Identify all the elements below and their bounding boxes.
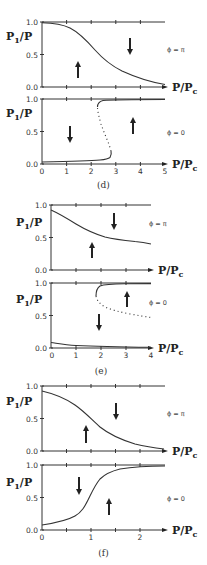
x-tick-3: 3: [124, 351, 129, 360]
x-axis-arrow-icon: [162, 528, 168, 532]
ticks: [40, 463, 140, 532]
x-tick-4: 4: [138, 167, 143, 176]
x-tick-1: 1: [89, 533, 94, 542]
y-axis-label: P1/P: [6, 476, 32, 491]
panel-f-top: 1.0 0.5 0.0 P1/P P/Pc ϕ = π: [6, 382, 198, 460]
stable-branch-curve: [42, 391, 164, 449]
unstable-branch-curve: [98, 107, 112, 151]
y-tick-0: 0.0: [26, 160, 38, 169]
phi-annotation: ϕ = π: [167, 410, 185, 418]
x-tick-0: 0: [40, 533, 45, 542]
ticks: [49, 281, 126, 350]
x-tick-5: 5: [163, 167, 168, 176]
x-tick-0: 0: [40, 167, 45, 176]
x-tick-1: 1: [74, 351, 79, 360]
ticks: [40, 97, 140, 166]
y-axis-label: P1/P: [6, 395, 32, 410]
phi-annotation: ϕ = 0: [167, 129, 185, 137]
x-tick-1: 1: [64, 167, 69, 176]
y-tick-1: 1.0: [35, 201, 47, 210]
y-tick-1: 1.0: [26, 18, 38, 27]
x-axis-label: P/Pc: [172, 445, 198, 460]
x-axis-arrow-icon: [162, 85, 168, 89]
x-axis-label: P/Pc: [158, 342, 184, 357]
x-tick-0: 0: [50, 351, 55, 360]
arrow-down-icon: [111, 213, 117, 230]
phi-annotation: ϕ = 0: [149, 299, 167, 307]
upper-stable-curve: [96, 284, 151, 296]
y-axis-label: P1/P: [6, 107, 32, 122]
y-tick-0: 0.0: [26, 447, 38, 456]
y-tick-1: 1.0: [26, 95, 38, 104]
y-axis-label: P1/P: [16, 216, 42, 231]
arrow-down-icon: [76, 477, 82, 495]
phi-annotation: ϕ = π: [167, 46, 185, 54]
lower-stable-curve: [51, 343, 151, 348]
y-tick-05: 0.5: [26, 51, 38, 60]
arrow-up-icon: [130, 117, 136, 134]
arrow-down-icon: [127, 38, 133, 55]
panel-caption-f: (f): [98, 548, 108, 558]
x-axis-arrow-icon: [162, 449, 168, 453]
arrow-up-icon: [106, 498, 112, 515]
unstable-branch-curve: [96, 296, 151, 318]
y-tick-05: 0.5: [26, 128, 38, 137]
x-tick-3: 3: [113, 167, 118, 176]
x-axis-label: P/Pc: [158, 264, 184, 279]
x-tick-2: 2: [138, 533, 143, 542]
y-tick-05: 0.5: [26, 494, 38, 503]
ticks: [40, 20, 140, 89]
y-tick-0: 0.0: [26, 83, 38, 92]
y-tick-1: 1.0: [35, 279, 47, 288]
panel-caption-e: (e): [95, 366, 107, 376]
arrow-up-icon: [75, 61, 81, 78]
x-tick-2: 2: [89, 167, 94, 176]
stable-branch-curve: [42, 466, 165, 525]
arrow-up-icon: [124, 291, 130, 307]
x-axis-arrow-icon: [148, 268, 154, 272]
panel-d-bottom: 1.0 0.5 0.0 0 1 2 3 4 5 P1/P P/Pc ϕ = 0 …: [6, 95, 198, 190]
y-tick-05: 0.5: [35, 312, 47, 321]
x-axis-label: P/Pc: [172, 158, 198, 173]
lower-stable-curve: [42, 151, 111, 162]
y-tick-1: 1.0: [26, 382, 38, 391]
upper-stable-curve: [98, 100, 166, 108]
y-tick-05: 0.5: [35, 234, 47, 243]
x-axis-arrow-icon: [148, 346, 154, 350]
arrow-down-icon: [67, 126, 73, 143]
y-tick-0: 0.0: [26, 526, 38, 535]
y-axis-label: P1/P: [16, 293, 42, 308]
stable-branch-curve: [51, 210, 151, 244]
phi-annotation: ϕ = π: [149, 220, 167, 228]
panel-e-bottom: 1.0 0.5 0.0 0 1 2 3 4 P1/P P/Pc ϕ = 0 (e…: [16, 279, 184, 376]
x-axis-label: P/Pc: [172, 524, 198, 539]
y-tick-05: 0.5: [26, 415, 38, 424]
figure-canvas: 1.0 0.5 0.0 P1/P P/Pc ϕ = π 1.0 0.5 0.0: [0, 0, 207, 565]
phi-annotation: ϕ = 0: [167, 495, 185, 503]
arrow-up-icon: [83, 425, 89, 443]
panel-e-top: 1.0 0.5 0.0 P1/P P/Pc ϕ = π: [16, 201, 184, 279]
y-tick-0: 0.0: [35, 266, 47, 275]
x-tick-2: 2: [99, 351, 104, 360]
arrow-down-icon: [113, 403, 119, 420]
arrow-up-icon: [89, 242, 95, 258]
x-axis-label: P/Pc: [172, 81, 198, 96]
panel-f-bottom: 1.0 0.5 0.0 0 1 2 P1/P P/Pc ϕ = 0 (f): [6, 461, 198, 558]
arrow-down-icon: [96, 314, 102, 331]
panel-d-top: 1.0 0.5 0.0 P1/P P/Pc ϕ = π: [6, 18, 198, 96]
y-axis-label: P1/P: [6, 30, 32, 45]
y-tick-0: 0.0: [35, 344, 47, 353]
y-tick-1: 1.0: [26, 461, 38, 470]
stable-branch-curve: [42, 23, 165, 85]
x-axis-arrow-icon: [162, 162, 168, 166]
x-tick-4: 4: [149, 351, 154, 360]
panel-caption-d: (d): [97, 180, 110, 190]
